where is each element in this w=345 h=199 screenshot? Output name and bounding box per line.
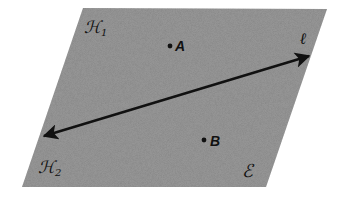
point-b-label: B: [210, 133, 220, 149]
point-b-dot: [202, 138, 207, 143]
point-a-dot: [168, 44, 173, 49]
plane-diagram: ℋ1 ℋ2 ℓ ℰ A B: [0, 0, 345, 199]
line-l-label: ℓ: [299, 29, 307, 48]
point-a-label: A: [174, 38, 185, 54]
